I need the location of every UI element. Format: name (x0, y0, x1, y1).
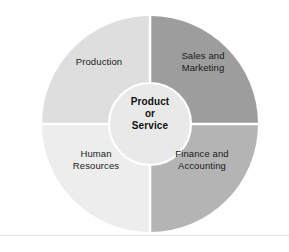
bottom-divider-rule (0, 235, 289, 236)
functional-areas-wheel-diagram: Production Sales and Marketing Human Res… (0, 0, 289, 252)
wheel-graphic (0, 0, 289, 252)
center-hub-circle (109, 83, 191, 165)
